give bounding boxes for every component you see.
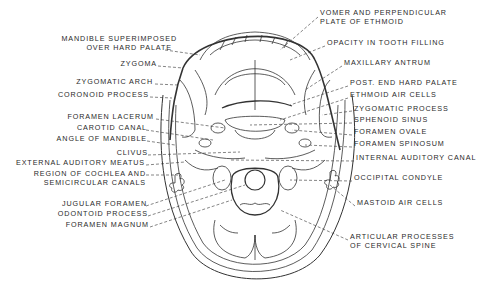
label-internal-auditory-canal: INTERNAL AUDITORY CANAL [356,153,476,162]
label-ethmoid-air-cells: ETHMOID AIR CELLS [350,90,437,99]
label-over-hard-palate: OVER HARD PALATE [86,43,172,52]
label-foramen-ovale: FORAMEN OVALE [354,127,427,136]
label-foramen-magnum: FORAMEN MAGNUM [66,220,149,229]
label-maxillary-antrum: MAXILLARY ANTRUM [344,58,431,67]
label-post-end-hard-palate: POST. END HARD PALATE [350,78,458,87]
label-odontoid-process: ODONTOID PROCESS [58,209,148,218]
label-carotid-canal: CAROTID CANAL [77,123,147,132]
label-opacity-tooth-filling: OPACITY IN TOOTH FILLING [327,38,445,47]
label-semicircular-canals: SEMICIRCULAR CANALS [44,178,146,187]
label-foramen-spinosum: FORAMEN SPINOSUM [354,139,445,148]
label-occipital-condyle: OCCIPITAL CONDYLE [354,173,443,182]
label-external-auditory-meatus: EXTERNAL AUDITORY MEATUS [16,158,145,167]
label-clivus: CLIVUS [117,148,148,157]
label-angle-of-mandible: ANGLE OF MANDIBLE [57,134,147,143]
label-region-of-cochlea: REGION OF COCHLEA AND [34,169,146,178]
label-zygoma: ZYGOMA [120,59,157,68]
label-zygomatic-process: ZYGOMATIC PROCESS [354,104,449,113]
label-mastoid-air-cells: MASTOID AIR CELLS [357,198,443,207]
label-foramen-lacerum: FORAMEN LACERUM [67,112,154,121]
label-plate-of-ethmoid: PLATE OF ETHMOID [320,17,404,26]
label-mandible-superimposed: MANDIBLE SUPERIMPOSED [61,34,177,43]
label-coronoid-process: CORONOID PROCESS [58,90,149,99]
label-jugular-foramen: JUGULAR FORAMEN [62,199,147,208]
label-sphenoid-sinus: SPHENOID SINUS [354,115,428,124]
label-of-cervical-spine: OF CERVICAL SPINE [350,241,436,250]
label-zygomatic-arch: ZYGOMATIC ARCH [76,77,153,86]
label-vomer: VOMER AND PERPENDICULAR [320,8,447,17]
label-articular-processes: ARTICULAR PROCESSES [350,232,454,241]
